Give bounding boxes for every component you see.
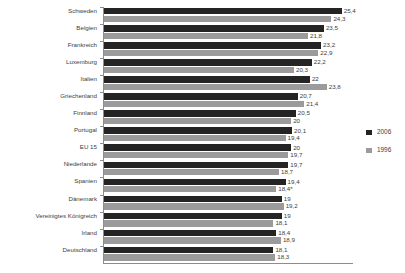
bar-wrapper <box>104 246 275 263</box>
bar-wrapper <box>104 229 281 246</box>
category-label: Schweden <box>0 7 97 15</box>
value-label: 23,5 <box>326 24 338 31</box>
chart-row: Luxemburg22,220,3 <box>0 58 405 75</box>
category-label: Dänemark <box>0 195 97 203</box>
chart-row: Irland18,418,9 <box>0 229 405 246</box>
chart-rows: Schweden25,424,3Belgien23,521,8Frankreic… <box>0 7 405 263</box>
chart-row: Schweden25,424,3 <box>0 7 405 24</box>
bar-1996 <box>104 101 304 107</box>
bar-1996 <box>104 135 286 141</box>
bar-wrapper <box>104 195 284 212</box>
axis-tick <box>100 177 103 178</box>
value-label: 19,2 <box>286 202 298 209</box>
legend-label: 2006 <box>377 128 391 136</box>
bar-1996 <box>104 203 284 209</box>
bar-wrapper <box>104 41 318 58</box>
bar-wrapper <box>104 177 276 194</box>
bar-1996 <box>104 50 318 56</box>
value-label: 19,4 <box>288 134 300 141</box>
bar-1996 <box>104 186 276 192</box>
bar-1996 <box>104 84 327 90</box>
category-label: EU 15 <box>0 143 97 151</box>
legend-item[interactable]: 2006 <box>366 128 405 146</box>
value-label: 22,2 <box>314 58 326 65</box>
chart-legend: 20061996 <box>366 128 405 164</box>
chart-row: Finnland20,520 <box>0 109 405 126</box>
chart-row: Belgien23,521,8 <box>0 24 405 41</box>
category-label: Vereinigtes Königreich <box>0 212 97 220</box>
value-label: 18,1 <box>275 246 287 253</box>
chart-row: Niederlande19,718,7 <box>0 160 405 177</box>
axis-tick <box>100 41 103 42</box>
value-label: 19,7 <box>290 161 302 168</box>
value-label: 23,8 <box>329 83 341 90</box>
value-label: 18,4* <box>278 185 292 192</box>
chart-row: Portugal20,119,4 <box>0 126 405 143</box>
axis-tick <box>100 58 103 59</box>
category-label: Finnland <box>0 109 97 117</box>
category-label: Frankreich <box>0 41 97 49</box>
bar-wrapper <box>104 58 294 75</box>
chart-page: Schweden25,424,3Belgien23,521,8Frankreic… <box>0 0 405 273</box>
value-label: 21,4 <box>306 100 318 107</box>
bar-wrapper <box>104 126 286 143</box>
value-label: 20,1 <box>294 127 306 134</box>
category-label: Belgien <box>0 24 97 32</box>
legend-swatch-icon <box>366 148 372 154</box>
value-label: 18,9 <box>283 236 295 243</box>
value-label: 23,2 <box>323 41 335 48</box>
axis-tick <box>100 195 103 196</box>
bar-wrapper <box>104 24 308 41</box>
axis-tick <box>100 212 103 213</box>
bar-wrapper <box>104 143 288 160</box>
value-label: 19 <box>284 212 291 219</box>
category-label: Irland <box>0 229 97 237</box>
chart-row: EU 152019,7 <box>0 143 405 160</box>
category-label: Griechenland <box>0 92 97 100</box>
category-label: Niederlande <box>0 160 97 168</box>
value-label: 20,3 <box>296 66 308 73</box>
bar-1996 <box>104 254 275 260</box>
value-label: 20 <box>293 117 300 124</box>
axis-tick <box>100 126 103 127</box>
axis-tick <box>100 143 103 144</box>
axis-tick <box>100 246 103 247</box>
legend-label: 1996 <box>377 146 391 154</box>
axis-tick <box>100 24 103 25</box>
bar-1996 <box>104 33 308 39</box>
category-label: Deutschland <box>0 246 97 254</box>
value-label: 20,5 <box>298 109 310 116</box>
chart-row: Dänemark1919,2 <box>0 195 405 212</box>
axis-tick <box>100 109 103 110</box>
value-label: 19 <box>284 195 291 202</box>
value-label: 22,9 <box>320 49 332 56</box>
bar-chart: Schweden25,424,3Belgien23,521,8Frankreic… <box>0 0 405 273</box>
value-label: 18,1 <box>275 219 287 226</box>
value-label: 21,8 <box>310 32 322 39</box>
axis-tick <box>100 229 103 230</box>
legend-item[interactable]: 1996 <box>366 146 405 164</box>
chart-row: Vereinigtes Königreich1918,1 <box>0 212 405 229</box>
value-label: 18,7 <box>281 168 293 175</box>
category-label: Luxemburg <box>0 58 97 66</box>
bar-1996 <box>104 67 294 73</box>
chart-baseline <box>103 263 353 264</box>
bar-1996 <box>104 118 291 124</box>
value-label: 18,3 <box>277 253 289 260</box>
bar-wrapper <box>104 75 327 92</box>
category-label: Spanien <box>0 177 97 185</box>
bar-1996 <box>104 169 279 175</box>
chart-row: Griechenland20,721,4 <box>0 92 405 109</box>
bar-wrapper <box>104 160 279 177</box>
chart-row: Deutschland18,118,3 <box>0 246 405 263</box>
value-label: 24,3 <box>333 15 345 22</box>
axis-tick <box>100 160 103 161</box>
axis-tick <box>100 7 103 8</box>
chart-row: Spanien19,418,4* <box>0 177 405 194</box>
legend-swatch-icon <box>366 130 372 136</box>
bar-wrapper <box>104 109 291 126</box>
category-label: Italien <box>0 75 97 83</box>
axis-tick <box>100 75 103 76</box>
value-label: 19,7 <box>290 151 302 158</box>
value-label: 25,4 <box>344 7 356 14</box>
